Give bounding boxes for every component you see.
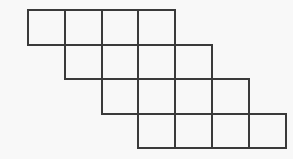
staircase-grid xyxy=(0,0,293,159)
figure-canvas xyxy=(0,0,293,159)
